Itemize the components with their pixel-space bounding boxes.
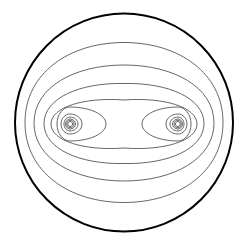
outer-contour	[25, 43, 223, 203]
left-charge-contour	[68, 122, 73, 127]
contour-lines	[25, 43, 223, 203]
contour-figure	[0, 0, 248, 242]
right-charge-contour	[175, 122, 180, 127]
equipotential-diagram	[0, 0, 248, 242]
circular-boundary	[15, 14, 233, 232]
